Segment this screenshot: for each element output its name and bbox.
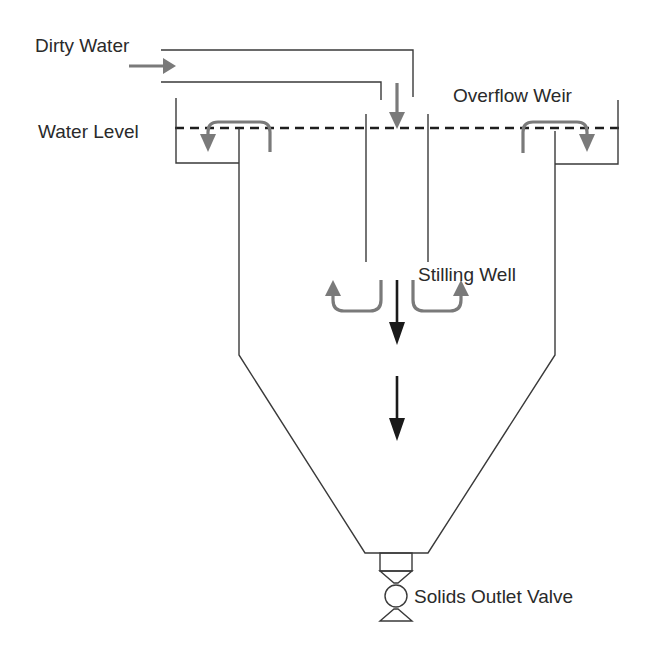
settling-arrow-upper-icon: [389, 280, 405, 345]
label-solids-outlet-valve: Solids Outlet Valve: [414, 587, 573, 606]
stilling-well: [366, 114, 428, 262]
label-stilling-well: Stilling Well: [418, 265, 516, 284]
inflow-arrow-icon: [129, 58, 176, 74]
label-water-level: Water Level: [38, 122, 139, 141]
settling-arrow-lower-icon: [389, 376, 405, 441]
left-upflow-arrow-icon: [325, 280, 381, 311]
inlet-down-arrow-icon: [389, 83, 405, 129]
right-overflow-arrow-icon: [523, 122, 595, 153]
label-dirty-water: Dirty Water: [35, 36, 129, 55]
left-overflow-arrow-icon: [200, 122, 270, 152]
inlet-pipe: [161, 50, 413, 100]
label-overflow-weir: Overflow Weir: [453, 86, 572, 105]
solids-outlet-valve: [380, 553, 412, 621]
